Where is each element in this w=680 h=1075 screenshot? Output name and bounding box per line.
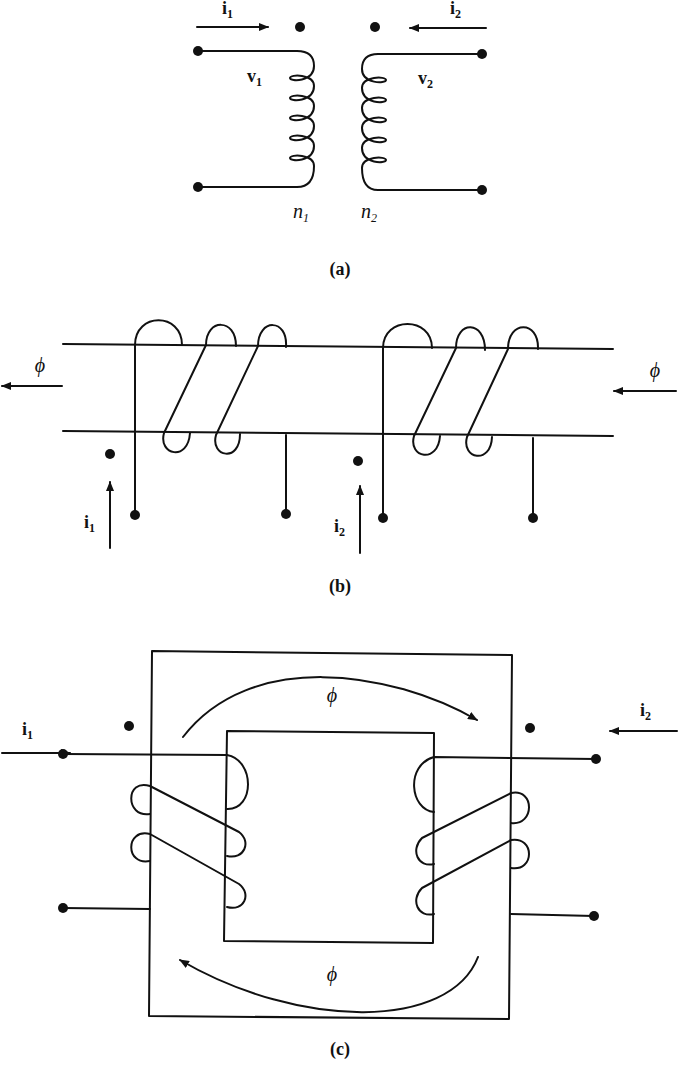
label-v1: v1 [247, 66, 262, 89]
flux-label-top: ϕ [327, 684, 337, 707]
panel-c-core-type-transformer: ϕ ϕ i1 i2 (c) [2, 651, 677, 1060]
winding-1 [135, 320, 286, 515]
winding-1-terminal-a [130, 510, 140, 520]
right-winding [414, 757, 596, 916]
caption-a: (a) [330, 259, 351, 280]
label-i2: i2 [640, 700, 651, 723]
winding-1-polarity-dot [105, 449, 115, 459]
panel-b-core-windings: ϕ ϕ i1 i2 (b) [2, 320, 676, 597]
right-polarity-dot [525, 723, 535, 733]
core-bottom-edge [63, 431, 613, 436]
caption-b: (b) [329, 576, 351, 597]
winding-2-terminal-a [378, 513, 388, 523]
label-i2: i2 [450, 0, 461, 21]
label-i1: i1 [22, 719, 33, 742]
label-i2: i2 [334, 516, 345, 539]
core-window-edge [224, 731, 434, 943]
label-i1: i1 [84, 512, 95, 535]
transformer-figure: i1 i2 v1 v2 n1 n2 (a) ϕ ϕ [0, 0, 680, 1075]
label-v2: v2 [418, 68, 433, 91]
left-winding [63, 754, 248, 909]
winding-2-polarity-dot [353, 456, 363, 466]
primary-coil [198, 51, 314, 187]
polarity-dot-2 [370, 22, 380, 32]
flux-label-bottom: ϕ [327, 963, 337, 986]
winding-2 [383, 324, 538, 518]
label-n2: n2 [361, 200, 377, 225]
winding-1-terminal-b [281, 509, 291, 519]
flux-label-left: ϕ [35, 354, 45, 377]
core-top-edge [63, 344, 613, 349]
flux-label-right: ϕ [650, 359, 660, 382]
panel-a-ideal-transformer-symbol: i1 i2 v1 v2 n1 n2 (a) [193, 0, 487, 280]
label-i1: i1 [222, 0, 233, 21]
left-polarity-dot [124, 721, 134, 731]
winding-2-terminal-b [528, 513, 538, 523]
polarity-dot-1 [295, 22, 305, 32]
label-n1: n1 [293, 200, 309, 225]
caption-c: (c) [330, 1039, 350, 1060]
